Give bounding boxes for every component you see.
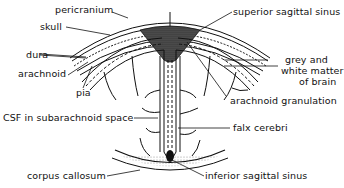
label-falx-cerebri: falx cerebri xyxy=(233,123,288,133)
label-of-brain: of brain xyxy=(299,77,336,87)
label-csf: CSF in subarachnoid space xyxy=(3,113,134,123)
label-skull: skull xyxy=(40,22,62,32)
label-pericranium: pericranium xyxy=(55,5,113,15)
label-corpus-callosum: corpus callosum xyxy=(27,171,106,181)
superior-sagittal-sinus xyxy=(140,26,200,62)
label-arachnoid-granulation: arachnoid granulation xyxy=(230,96,337,106)
label-white-matter: white matter xyxy=(281,66,344,76)
label-grey-and: grey and xyxy=(285,55,328,65)
label-superior-sagittal-sinus: superior sagittal sinus xyxy=(233,7,340,17)
label-dura: dura xyxy=(26,50,48,60)
label-arachnoid: arachnoid xyxy=(18,69,66,79)
label-inferior-sagittal-sinus: inferior sagittal sinus xyxy=(205,171,307,181)
label-pia: pia xyxy=(76,88,91,98)
